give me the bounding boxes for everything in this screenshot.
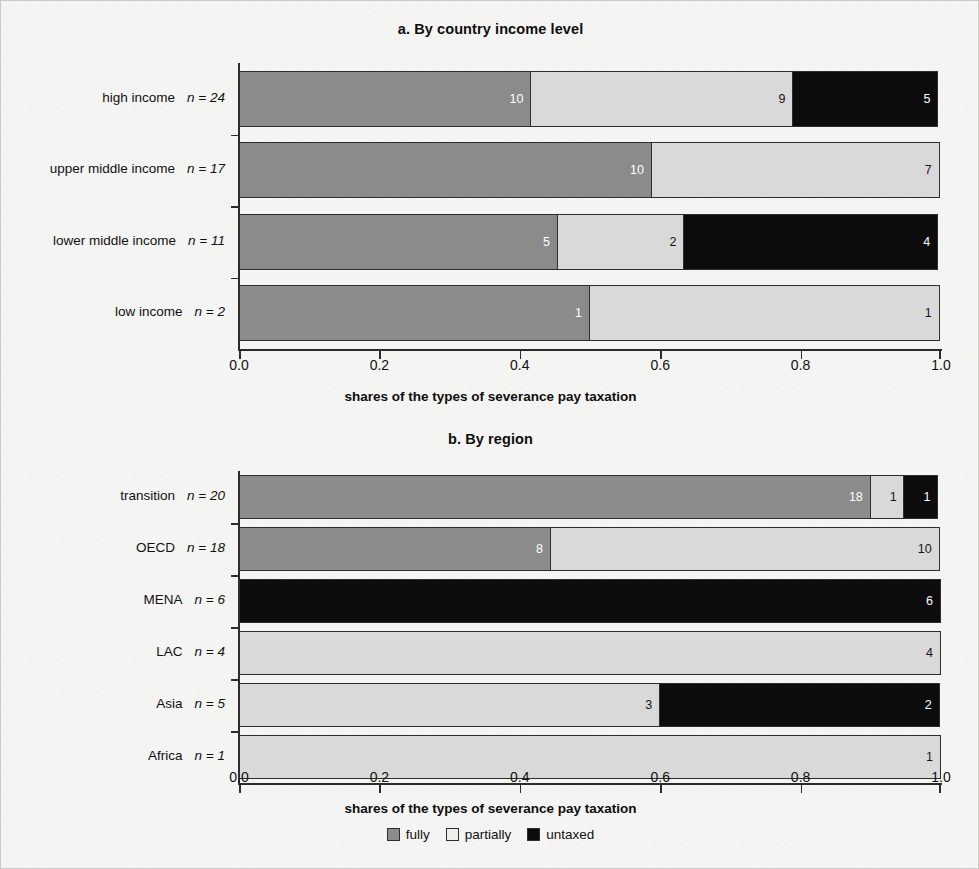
panel-a-title: a. By country income level [1,21,979,37]
chart-panel-b: b. By region 181181064321 transitionn = … [1,419,979,819]
bar-segment-untaxed: 6 [239,579,941,623]
y-axis-category-name: upper middle income [50,161,175,176]
x-axis-tick [660,785,662,793]
bar-segment-fully: 5 [239,214,558,270]
bar-segment-fully: 8 [239,527,551,571]
y-axis-label: upper middle incomen = 17 [1,161,225,176]
panel-b-title: b. By region [1,431,979,447]
bar-segment-value: 1 [890,491,904,504]
x-axis-tick-label: 0.2 [370,357,389,373]
bar-segment-value: 2 [925,699,939,712]
bar-segment-value: 9 [779,93,793,106]
y-axis-category-name: LAC [156,644,182,659]
y-axis-category-name: high income [102,90,175,105]
bar-segment-partially: 1 [589,285,940,341]
legend-swatch-partially-icon [446,828,459,841]
x-axis-tick-label: 0.6 [650,357,669,373]
y-axis-sample-size: n = 18 [187,540,225,555]
bar-segment-value: 1 [926,751,940,764]
bar-row: 32 [239,683,941,727]
x-axis-tick [379,785,381,793]
y-axis-sample-size: n = 4 [195,644,225,659]
bar-segment-value: 7 [925,164,939,177]
bar-row: 524 [239,214,941,270]
legend-label: fully [406,827,430,842]
y-axis-category-name: MENA [144,592,183,607]
bar-row: 11 [239,285,941,341]
bar-segment-value: 1 [925,307,939,320]
y-axis-tick [231,575,239,577]
x-axis-tick-label: 0.0 [229,357,248,373]
x-axis-tick-label: 0.4 [510,357,529,373]
bar-segment-value: 4 [926,647,940,660]
legend-swatch-untaxed-icon [527,828,540,841]
y-axis-tick [231,278,239,280]
bar-segment-fully: 18 [239,475,871,519]
bar-segment-partially: 9 [530,71,793,127]
bar-segment-fully: 10 [239,142,652,198]
x-axis-tick [239,785,241,793]
panel-b-bar-rows: 181181064321 [239,471,941,783]
bar-row: 1811 [239,475,941,519]
bar-segment-partially: 2 [557,214,685,270]
bar-segment-value: 1 [923,491,937,504]
bar-segment-value: 4 [923,236,937,249]
bar-segment-partially: 4 [239,631,941,675]
x-axis-tick-label: 1.0 [931,357,950,373]
x-axis-tick [939,785,941,793]
y-axis-label: low incomen = 2 [1,304,225,319]
y-axis-label: MENAn = 6 [1,592,225,607]
bar-row: 4 [239,631,941,675]
y-axis-tick [231,523,239,525]
bar-segment-partially: 10 [550,527,940,571]
y-axis-label: transitionn = 20 [1,488,225,503]
bar-segment-value: 10 [510,93,531,106]
bar-segment-untaxed: 1 [903,475,938,519]
panel-a-plot-area: 109510752411 [239,63,941,349]
x-axis-tick-label: 0.0 [229,769,248,785]
figure-panel-container: a. By country income level 109510752411 … [0,0,979,869]
bar-segment-untaxed: 4 [683,214,938,270]
bar-segment-fully: 10 [239,71,532,127]
y-axis-label: African = 1 [1,748,225,763]
y-axis-sample-size: n = 20 [187,488,225,503]
legend-label: untaxed [546,827,594,842]
y-axis-sample-size: n = 6 [195,592,225,607]
y-axis-tick [231,731,239,733]
panel-b-x-axis-title: shares of the types of severance pay tax… [1,801,979,816]
x-axis-tick-label: 0.2 [370,769,389,785]
bar-row: 1 [239,735,941,779]
y-axis-category-name: OECD [136,540,175,555]
y-axis-category-name: transition [120,488,175,503]
y-axis-sample-size: n = 2 [195,304,225,319]
y-axis-tick [231,206,239,208]
y-axis-sample-size: n = 5 [195,696,225,711]
legend-item-partially: partially [446,827,512,842]
legend-item-fully: fully [387,827,430,842]
bar-segment-value: 5 [543,236,557,249]
chart-panel-a: a. By country income level 109510752411 … [1,1,979,421]
bar-segment-partially: 3 [239,683,660,727]
bar-segment-value: 1 [575,307,589,320]
y-axis-sample-size: n = 11 [188,233,225,248]
bar-segment-value: 2 [669,236,683,249]
x-axis-tick [520,785,522,793]
bar-segment-value: 8 [536,543,550,556]
chart-legend: fullypartiallyuntaxed [1,827,979,842]
y-axis-category-name: Africa [148,748,183,763]
y-axis-tick [231,679,239,681]
bar-segment-value: 6 [926,595,940,608]
bar-segment-value: 5 [923,93,937,106]
x-axis-tick-label: 1.0 [931,769,950,785]
x-axis-tick [801,785,803,793]
bar-segment-partially: 1 [870,475,905,519]
bar-row: 107 [239,142,941,198]
bar-segment-fully: 1 [239,285,590,341]
bar-row: 6 [239,579,941,623]
legend-label: partially [465,827,512,842]
bar-segment-untaxed: 5 [792,71,938,127]
bar-segment-partially: 1 [239,735,941,779]
panel-a-x-axis-line [238,349,942,351]
y-axis-category-name: low income [115,304,183,319]
y-axis-category-name: Asia [156,696,182,711]
